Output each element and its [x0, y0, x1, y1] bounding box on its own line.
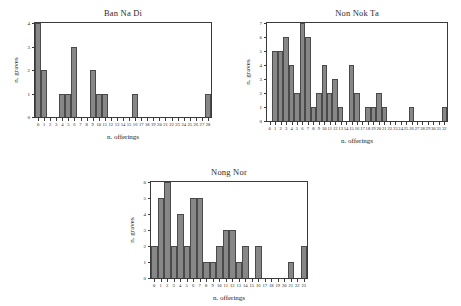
y-tick-label: 6	[138, 180, 146, 185]
y-tick	[148, 214, 151, 215]
x-tick-label: 12	[230, 283, 235, 288]
x-tick-label: 11	[224, 283, 228, 288]
x-tick-label: 6	[192, 283, 194, 288]
y-tick	[148, 246, 151, 247]
x-tick-label: 0	[153, 283, 155, 288]
x-tick	[245, 279, 246, 282]
y-tick	[148, 182, 151, 183]
y-tick-label: 0	[138, 276, 146, 281]
x-tick-label: 2	[166, 283, 168, 288]
x-tick	[239, 279, 240, 282]
y-tick	[148, 230, 151, 231]
x-tick-label: 18	[269, 283, 274, 288]
panel-title: Nong Nor	[150, 167, 308, 177]
x-tick-label: 16	[256, 283, 261, 288]
bar	[301, 246, 308, 278]
x-tick	[180, 279, 181, 282]
x-tick	[206, 279, 207, 282]
x-tick	[226, 279, 227, 282]
x-tick	[278, 279, 279, 282]
y-tick-label: 5	[138, 196, 146, 201]
y-tick-label: 3	[138, 228, 146, 233]
x-tick	[265, 279, 266, 282]
x-tick-label: 3	[173, 283, 175, 288]
y-tick	[148, 262, 151, 263]
x-axis-title: n. offerings	[150, 294, 308, 302]
x-tick-label: 21	[288, 283, 293, 288]
x-tick	[297, 279, 298, 282]
x-tick	[271, 279, 272, 282]
y-tick	[148, 198, 151, 199]
x-tick-label: 17	[262, 283, 267, 288]
x-tick	[304, 279, 305, 282]
x-tick-label: 9	[212, 283, 214, 288]
x-tick	[213, 279, 214, 282]
bar	[255, 246, 262, 278]
x-tick-label: 13	[236, 283, 241, 288]
bar	[288, 262, 295, 278]
plot-area	[150, 181, 308, 279]
x-tick-label: 19	[275, 283, 280, 288]
x-tick	[174, 279, 175, 282]
x-tick-label: 23	[301, 283, 306, 288]
x-tick	[291, 279, 292, 282]
x-tick-label: 10	[217, 283, 222, 288]
x-tick	[232, 279, 233, 282]
y-tick-label: 4	[138, 212, 146, 217]
x-tick	[219, 279, 220, 282]
y-tick-label: 1	[138, 260, 146, 265]
x-tick-label: 7	[199, 283, 201, 288]
x-tick	[193, 279, 194, 282]
x-tick	[167, 279, 168, 282]
y-tick	[148, 278, 151, 279]
x-tick	[284, 279, 285, 282]
x-tick-label: 4	[179, 283, 181, 288]
bar-series	[151, 182, 307, 278]
x-tick-label: 15	[249, 283, 254, 288]
bar	[242, 246, 249, 278]
x-tick-label: 1	[160, 283, 162, 288]
x-tick	[258, 279, 259, 282]
y-tick-label: 2	[138, 244, 146, 249]
x-tick	[154, 279, 155, 282]
x-tick-label: 14	[243, 283, 248, 288]
x-tick-label: 5	[186, 283, 188, 288]
x-tick	[200, 279, 201, 282]
x-tick	[252, 279, 253, 282]
y-axis-title: n. graves	[128, 181, 136, 279]
x-tick-label: 22	[295, 283, 300, 288]
x-tick	[161, 279, 162, 282]
x-tick-label: 20	[282, 283, 287, 288]
x-tick-label: 8	[205, 283, 207, 288]
x-tick	[187, 279, 188, 282]
chart-panel-nong-nor: Nong Nor01234567891011121314151617181920…	[0, 0, 461, 306]
